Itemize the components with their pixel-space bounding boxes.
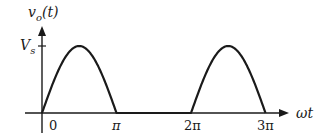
vs-label-symbol: V: [20, 37, 30, 53]
y-axis-label: vo(t): [28, 5, 59, 23]
x-tick-pi: π: [112, 119, 121, 132]
y-axis-label-symbol: v: [28, 4, 36, 20]
x-axis-arrow-icon: [279, 109, 289, 117]
rectified-waveform: [42, 46, 266, 113]
vs-level-label: Vs: [20, 38, 35, 56]
x-tick-0: 0: [49, 119, 57, 132]
y-axis-arrow-icon: [38, 26, 46, 36]
x-tick-3pi: 3π: [257, 119, 274, 132]
vs-label-subscript: s: [30, 45, 35, 56]
y-axis-label-argument: (t): [42, 4, 59, 20]
x-tick-2pi: 2π: [184, 119, 201, 132]
x-axis-label: ωt: [296, 106, 313, 120]
